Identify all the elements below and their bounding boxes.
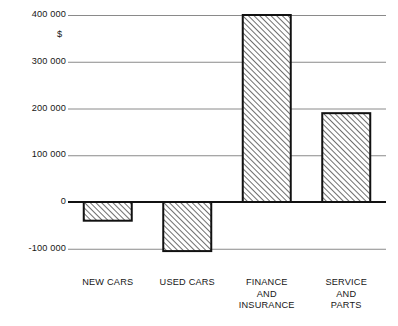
y-axis-tick-label: 300 000: [2, 56, 66, 66]
bar: [163, 202, 211, 251]
bar: [322, 113, 370, 202]
bar: [84, 202, 132, 221]
bars-group: [84, 15, 371, 251]
bar: [243, 15, 291, 202]
category-label-line: PARTS: [307, 300, 387, 312]
category-label-line: INSURANCE: [227, 300, 307, 312]
y-axis-tick-label: 200 000: [2, 103, 66, 113]
y-axis-tick-label: 100 000: [2, 149, 66, 159]
category-label-line: AND: [227, 289, 307, 301]
category-label-line: USED CARS: [148, 277, 228, 289]
category-label-line: NEW CARS: [68, 277, 148, 289]
y-axis-tick-label: 0: [2, 196, 66, 206]
category-label-line: FINANCE: [227, 277, 307, 289]
category-label-line: AND: [307, 289, 387, 301]
category-label: NEW CARS: [68, 277, 148, 289]
y-axis-unit-label: $: [0, 29, 62, 39]
category-label-line: SERVICE: [307, 277, 387, 289]
y-axis-tick-label: 400 000: [2, 9, 66, 19]
category-label: SERVICEANDPARTS: [307, 277, 387, 312]
y-axis-tick-label: -100 000: [2, 243, 66, 253]
category-label: USED CARS: [148, 277, 228, 289]
bar-chart: 400 000300 000200 000100 0000-100 000 $ …: [0, 0, 398, 326]
category-label: FINANCEANDINSURANCE: [227, 277, 307, 312]
y-axis-tick-labels: 400 000300 000200 000100 0000-100 000: [0, 0, 66, 326]
